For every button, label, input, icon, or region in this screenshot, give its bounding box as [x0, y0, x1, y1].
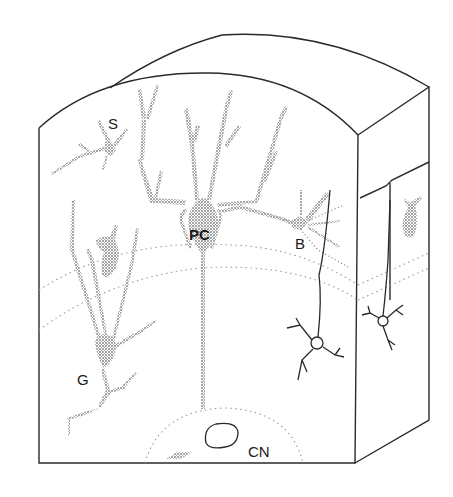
cerebellar-cortex-diagram: S PC B G CN	[0, 0, 453, 497]
cn-stippled-patch	[166, 452, 192, 459]
cn-boundary	[145, 408, 303, 463]
side-stippled-cell	[403, 196, 422, 238]
block-outline	[39, 34, 429, 463]
back-arch	[110, 34, 429, 88]
label-stellate: S	[108, 116, 118, 131]
side-face	[355, 87, 429, 463]
cn-oval	[205, 423, 238, 448]
label-golgi: G	[77, 372, 89, 387]
basket-cell-processes	[262, 205, 350, 268]
purkinje-cell	[138, 85, 300, 409]
side-slab-top	[360, 162, 429, 198]
granule-cells	[287, 190, 403, 380]
diagram-canvas	[0, 0, 453, 497]
label-basket: B	[295, 236, 305, 251]
cn-structures	[166, 423, 238, 459]
label-cerebellar-nuclei: CN	[248, 444, 270, 459]
granule-stippled-cell	[96, 225, 119, 277]
label-purkinje: PC	[189, 227, 210, 242]
